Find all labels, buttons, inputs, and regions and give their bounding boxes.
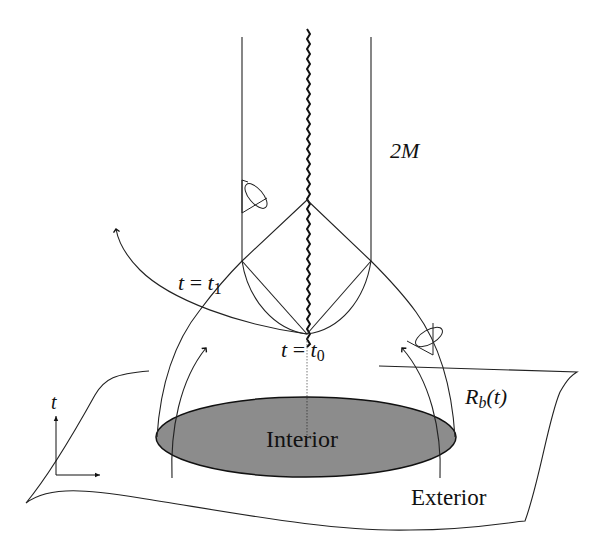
t0-eq: =: [287, 337, 310, 362]
exterior-label: Exterior: [411, 486, 486, 509]
axis-t-label: t: [51, 392, 57, 412]
t1-label: t = t1: [178, 272, 222, 297]
light-cone-upper: [241, 180, 271, 213]
t0-sub: 0: [317, 347, 325, 364]
rb-label: Rb(t): [465, 386, 507, 411]
interior-label: Interior: [266, 427, 338, 451]
t1-sub: 1: [214, 280, 222, 297]
rb-arg: (t): [486, 384, 507, 409]
t0-label: t = t0: [281, 339, 325, 364]
diagram-svg: [0, 0, 603, 548]
singularity-wiggle: [307, 29, 310, 347]
rb-sym: R: [465, 384, 478, 409]
horizon-label: 2M: [390, 140, 419, 162]
null-line-right: [307, 261, 371, 334]
collapse-diagram: 2M t = t1 t = t0 Rb(t) t Interior Exteri…: [0, 0, 603, 548]
t1-eq: =: [184, 270, 207, 295]
